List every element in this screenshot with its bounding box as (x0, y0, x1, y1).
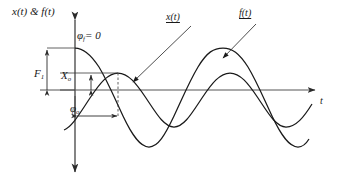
amplitude-x-label: Xo (61, 70, 71, 83)
figure-canvas: x(t) & f(t) t φf= 0 F1 Xo φo x(t) f(t) (0, 0, 338, 187)
phi-f-equals: = 0 (85, 29, 101, 41)
x-symbol: X (61, 69, 68, 81)
x-subscript: o (68, 75, 71, 82)
f-subscript: 1 (41, 73, 44, 80)
x-axis-label: t (320, 96, 323, 106)
curve-label-xt: x(t) (166, 12, 180, 22)
f-symbol: F (34, 67, 41, 79)
amplitude-f-label: F1 (34, 68, 44, 81)
leader-ft (223, 24, 256, 58)
y-axis-label: x(t) & f(t) (12, 6, 55, 17)
figure-svg (0, 0, 338, 187)
curve-label-ft: f(t) (239, 8, 251, 18)
leader-xt (133, 26, 191, 82)
phase-f-annotation: φf= 0 (77, 30, 101, 43)
curve-ft (75, 48, 309, 147)
phi-o-subscript: o (76, 108, 79, 115)
phase-o-label: φo (70, 103, 80, 116)
curve-xt (64, 73, 312, 130)
